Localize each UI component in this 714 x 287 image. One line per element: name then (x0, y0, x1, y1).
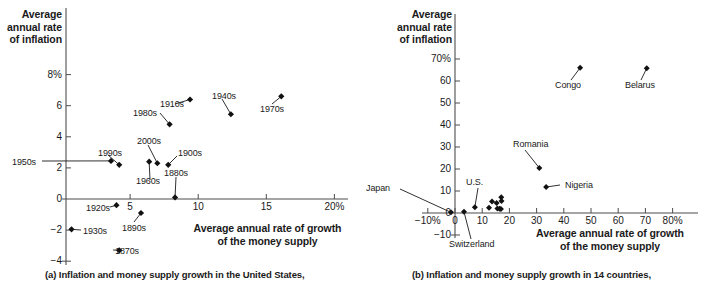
data-marker (543, 184, 549, 190)
data-markers (448, 65, 650, 216)
point-label: 1920s (86, 203, 110, 213)
tick-label: −2 (0, 224, 62, 235)
point-label: 1950s (12, 157, 36, 167)
tick-label: 8% (0, 69, 62, 80)
data-marker (494, 200, 500, 206)
data-marker (489, 199, 495, 205)
point-label: 1900s (178, 148, 202, 158)
chart-panel-a: Average annual rate of inflation Average… (0, 0, 360, 287)
data-marker (172, 194, 178, 200)
panel-a-plot-area (0, 0, 360, 287)
chart-panel-b: Average annual rate of inflation Average… (360, 0, 714, 287)
point-label: U.S. (466, 177, 483, 187)
tick-label: 60 (360, 75, 451, 86)
point-label: 1930s (83, 226, 107, 236)
data-marker (472, 204, 478, 210)
data-marker (187, 96, 193, 102)
point-label: Belarus (625, 80, 655, 90)
tick-label: −10 (360, 229, 451, 240)
tick-label: 70% (360, 53, 451, 64)
point-label: 1980s (133, 108, 157, 118)
data-marker (146, 159, 152, 165)
point-label: Congo (555, 80, 581, 90)
point-label: Switzerland (449, 239, 494, 249)
tick-label: 50 (360, 97, 451, 108)
tick-label: 20 (360, 163, 451, 174)
tick-label: 0 (0, 193, 62, 204)
tick-label: 30 (360, 141, 451, 152)
data-marker (68, 226, 74, 232)
panel-a-caption: (a) Inflation and money supply growth in… (45, 269, 305, 280)
point-label: 1880s (164, 168, 188, 178)
data-marker (486, 205, 492, 211)
point-label: 1970s (260, 104, 284, 114)
leader-lines (42, 96, 281, 250)
point-label: 1910s (160, 99, 184, 109)
point-label: Nigeria (565, 180, 593, 190)
tick-label: 6 (0, 100, 62, 111)
data-marker (461, 209, 467, 215)
data-marker (154, 160, 160, 166)
tick-label: 80% (633, 215, 713, 226)
data-marker (228, 111, 234, 117)
tick-label: 40 (360, 119, 451, 130)
data-marker (108, 158, 114, 164)
point-label: 2000s (137, 136, 161, 146)
point-label: 1870s (115, 246, 139, 256)
point-label: 1940s (212, 91, 236, 101)
data-marker (499, 198, 505, 204)
panel-b-caption: (b) Inflation and money supply growth in… (412, 269, 651, 280)
tick-label: 4 (0, 131, 62, 142)
point-label: 1990s (98, 148, 122, 158)
point-label: 1890s (122, 223, 146, 233)
tick-label: −4 (0, 255, 62, 266)
point-label: 1960s (136, 176, 160, 186)
point-label: Japan (366, 183, 390, 193)
point-label: Romania (513, 139, 548, 149)
data-marker (644, 65, 650, 71)
